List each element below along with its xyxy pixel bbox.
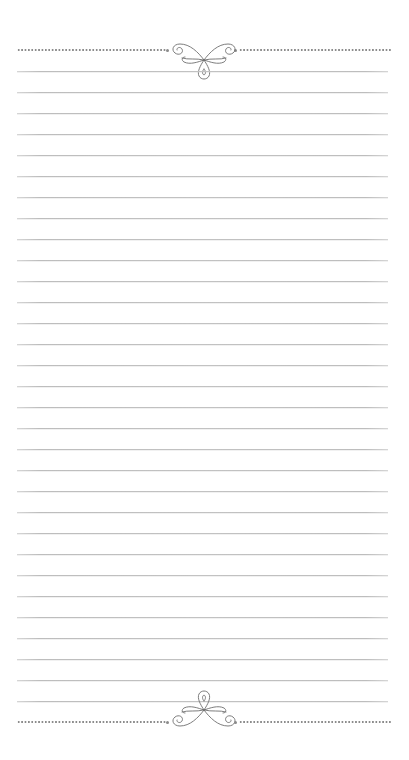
bottom-dotted-divider-right [239, 721, 392, 723]
ruled-line [17, 197, 388, 198]
ruled-line [17, 638, 388, 639]
ruled-line [17, 470, 388, 471]
ruled-line [17, 554, 388, 555]
ruled-line [17, 260, 388, 261]
ruled-line [17, 302, 388, 303]
ruled-line [17, 344, 388, 345]
ruled-line [17, 680, 388, 681]
ruled-line [17, 71, 388, 72]
notepaper-page [0, 0, 409, 760]
bottom-divider-end-dot-right [234, 721, 237, 724]
ruled-line [17, 407, 388, 408]
ruled-line [17, 113, 388, 114]
top-dotted-divider-right [239, 49, 392, 51]
ruled-line [17, 92, 388, 93]
ruled-line [17, 176, 388, 177]
ruled-line [17, 512, 388, 513]
top-dotted-divider-left [17, 49, 167, 51]
ruled-line [17, 239, 388, 240]
ruled-line [17, 365, 388, 366]
ruled-line [17, 617, 388, 618]
ruled-line [17, 134, 388, 135]
ruled-line [17, 386, 388, 387]
ruled-line [17, 575, 388, 576]
ruled-line [17, 155, 388, 156]
ruled-line [17, 659, 388, 660]
ruled-line [17, 323, 388, 324]
ruled-line [17, 449, 388, 450]
ruled-line [17, 281, 388, 282]
top-flourish-ornament-icon [168, 38, 240, 82]
ruled-line [17, 491, 388, 492]
bottom-divider-end-dot-left [166, 721, 169, 724]
bottom-dotted-divider-left [17, 721, 167, 723]
ruled-line [17, 428, 388, 429]
ruled-line [17, 533, 388, 534]
bottom-flourish-ornament-icon [168, 688, 240, 732]
ruled-line [17, 218, 388, 219]
ruled-line [17, 596, 388, 597]
